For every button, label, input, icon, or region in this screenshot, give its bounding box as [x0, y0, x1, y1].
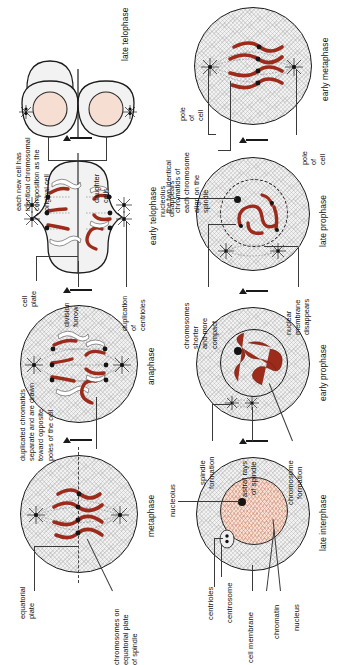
label-each-new-cell: each new cell hasidentical chromosomalco… [14, 111, 51, 211]
caption-late-telophase: late telophase [120, 7, 130, 61]
label-cell-membrane: cell membrane [246, 612, 255, 663]
leader-daughter-cells-lower [106, 137, 107, 161]
label-daughter-cells: daughtercells [92, 159, 110, 203]
